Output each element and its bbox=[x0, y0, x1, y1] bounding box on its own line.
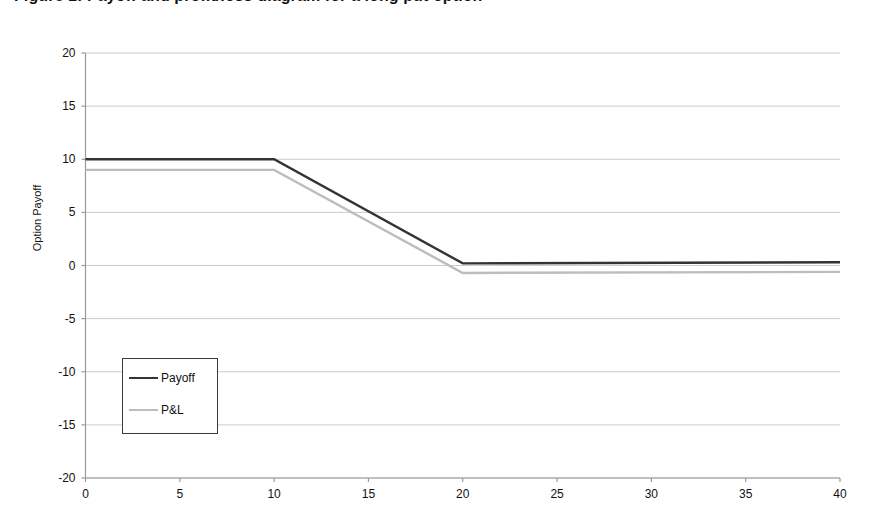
legend-swatch-pl bbox=[129, 409, 158, 411]
legend-item-payoff: Payoff bbox=[129, 370, 195, 386]
series-line-pl bbox=[86, 170, 841, 273]
legend-label-pl: P&L bbox=[161, 403, 184, 417]
legend-label-payoff: Payoff bbox=[161, 371, 195, 385]
legend-swatch-payoff bbox=[129, 377, 158, 379]
data-series bbox=[86, 159, 841, 273]
chart-legend: Payoff P&L bbox=[122, 358, 218, 434]
series-line-payoff bbox=[86, 159, 841, 263]
legend-item-pl: P&L bbox=[129, 402, 184, 418]
chart-figure: Figure 1: Payoff and profit/loss diagram… bbox=[0, 0, 869, 506]
